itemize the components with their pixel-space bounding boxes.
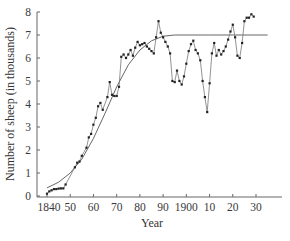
data-point-marker <box>153 52 155 54</box>
data-point-marker <box>211 52 213 54</box>
data-point-marker <box>218 49 220 51</box>
data-point-marker <box>167 45 169 47</box>
data-point-marker <box>222 50 224 52</box>
y-tick-label: 6 <box>25 52 31 64</box>
x-tick-label: 1900 <box>175 201 198 213</box>
y-tick-label: 8 <box>25 6 31 18</box>
data-point-marker <box>65 183 67 185</box>
data-point-marker <box>157 20 159 22</box>
x-tick-label: 60 <box>88 201 100 213</box>
data-point-marker <box>123 53 125 55</box>
data-point-marker <box>143 42 145 44</box>
data-point-marker <box>250 13 252 15</box>
data-point-marker <box>195 49 197 51</box>
y-tick-label: 4 <box>25 98 31 110</box>
data-point-marker <box>199 59 201 61</box>
data-point-marker <box>169 52 171 54</box>
data-point-marker <box>116 95 118 97</box>
data-point-marker <box>185 63 187 65</box>
data-point-marker <box>160 32 162 34</box>
data-point-marker <box>127 53 129 55</box>
data-point-marker <box>74 166 76 168</box>
data-point-marker <box>178 80 180 82</box>
data-point-marker <box>171 80 173 82</box>
y-tick-label: 5 <box>25 75 31 87</box>
data-point-marker <box>92 124 94 126</box>
data-point-marker <box>148 48 150 50</box>
data-point-marker <box>234 36 236 38</box>
data-point-marker <box>181 83 183 85</box>
data-point-marker <box>46 193 48 195</box>
x-tick-label: 80 <box>134 201 146 213</box>
data-point-marker <box>197 52 199 54</box>
data-point-marker <box>134 47 136 49</box>
data-point-marker <box>139 44 141 46</box>
data-point-marker <box>90 133 92 135</box>
y-axis-title: Number of sheep (in thousands) <box>3 27 17 181</box>
data-point-marker <box>206 111 208 113</box>
data-point-marker <box>246 17 248 19</box>
data-point-marker <box>227 39 229 41</box>
data-point-marker <box>88 136 90 138</box>
y-tick-label: 2 <box>25 144 31 156</box>
data-point-marker <box>130 49 132 51</box>
data-point-marker <box>220 53 222 55</box>
y-tick-label: 3 <box>25 121 31 133</box>
data-point-marker <box>202 80 204 82</box>
y-tick-label: 0 <box>25 190 31 202</box>
data-point-marker <box>248 17 250 19</box>
x-tick-label: 30 <box>250 201 262 213</box>
x-tick-label: 1840 <box>38 201 61 213</box>
data-point-marker <box>132 55 134 57</box>
data-point-marker <box>62 187 64 189</box>
data-point-marker <box>97 105 99 107</box>
data-point-marker <box>253 16 255 18</box>
data-point-marker <box>150 50 152 52</box>
data-point-marker <box>95 117 97 119</box>
data-point-marker <box>174 81 176 83</box>
axes: 012345678184050607080901900102030 <box>25 6 282 213</box>
data-point-marker <box>232 24 234 26</box>
y-tick-label: 1 <box>25 167 31 179</box>
data-point-marker <box>85 147 87 149</box>
data-point-marker <box>137 41 139 43</box>
data-point-marker <box>164 41 166 43</box>
data-point-marker <box>192 40 194 42</box>
data-point-marker <box>204 96 206 98</box>
data-point-marker <box>109 81 111 83</box>
x-axis-title: Year <box>141 216 163 230</box>
data-point-marker <box>241 42 243 44</box>
x-tick-label: 20 <box>227 201 239 213</box>
data-point-marker <box>113 95 115 97</box>
data-point-marker <box>236 55 238 57</box>
data-point-marker <box>141 43 143 45</box>
sheep-population-chart: 012345678184050607080901900102030 Year N… <box>0 0 290 241</box>
data-point-marker <box>120 56 122 58</box>
data-point-marker <box>176 70 178 72</box>
data-point-marker <box>243 20 245 22</box>
data-point-marker <box>239 57 241 59</box>
data-point-marker <box>102 109 104 111</box>
x-tick-label: 70 <box>111 201 123 213</box>
data-point-marker <box>188 50 190 52</box>
x-tick-label: 90 <box>157 201 169 213</box>
logistic-fit-curve <box>47 35 268 188</box>
x-tick-label: 50 <box>64 201 76 213</box>
observed-data-series <box>46 13 255 195</box>
data-point-marker <box>215 55 217 57</box>
data-point-marker <box>190 43 192 45</box>
data-point-marker <box>76 162 78 164</box>
data-point-marker <box>146 45 148 47</box>
data-point-marker <box>183 75 185 77</box>
data-point-marker <box>106 96 108 98</box>
data-point-marker <box>78 160 80 162</box>
data-point-marker <box>125 57 127 59</box>
data-point-marker <box>162 36 164 38</box>
data-point-marker <box>155 36 157 38</box>
data-point-marker <box>225 45 227 47</box>
y-tick-label: 7 <box>25 29 31 41</box>
data-point-marker <box>111 94 113 96</box>
data-point-marker <box>229 30 231 32</box>
data-point-marker <box>118 86 120 88</box>
fit-curve-path <box>47 35 268 188</box>
